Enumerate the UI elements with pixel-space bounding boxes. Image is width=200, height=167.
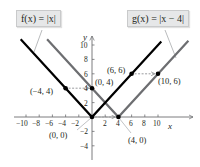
g-of-x-label: g(x) = |x − 4|	[132, 13, 184, 24]
x-tick-m4: −4	[58, 120, 66, 128]
point-label-0-0: (0, 0)	[49, 131, 67, 140]
y-tick-8: 8	[84, 56, 88, 64]
data-point	[90, 115, 95, 120]
x-axis-label: x	[168, 122, 172, 131]
point-label-m4-4: (−4, 4)	[30, 87, 53, 96]
f-of-x-label: f(x) = |x|	[21, 13, 56, 24]
f-callout-leader	[34, 30, 42, 52]
point-label-6-6: (6, 6)	[107, 66, 125, 75]
f-of-x-line	[21, 39, 162, 117]
data-point	[90, 86, 95, 91]
point-label-4-0: (4, 0)	[128, 136, 146, 145]
x-tick-m6: −6	[45, 120, 53, 128]
x-tick-8: 8	[142, 120, 146, 128]
g-of-x-callout: g(x) = |x − 4|	[127, 10, 189, 27]
y-tick-10: 10	[80, 42, 88, 50]
y-tick-m4: −4	[80, 143, 88, 151]
data-point	[63, 86, 68, 91]
g-callout-leader	[165, 30, 176, 58]
point-label-0-4: (0, 4)	[95, 78, 113, 87]
x-tick-m10: −10	[16, 120, 28, 128]
f-of-x-callout: f(x) = |x|	[16, 10, 61, 27]
x-tick-2: 2	[103, 120, 107, 128]
point-label-10-6: (10, 6)	[158, 77, 181, 86]
x-tick-6: 6	[129, 120, 133, 128]
y-tick-m2: −2	[80, 128, 88, 136]
y-tick-4: 4	[84, 85, 88, 93]
graph-figure: f(x) = |x| g(x) = |x − 4| y x 10 8 6 4 2…	[0, 0, 200, 167]
y-tick-6: 6	[84, 71, 88, 79]
data-point	[129, 72, 134, 77]
x-tick-4: 4	[116, 120, 120, 128]
y-tick-2: 2	[84, 100, 88, 108]
x-tick-10: 10	[153, 120, 161, 128]
x-tick-m8: −8	[32, 120, 40, 128]
x-tick-m2: −2	[71, 120, 79, 128]
